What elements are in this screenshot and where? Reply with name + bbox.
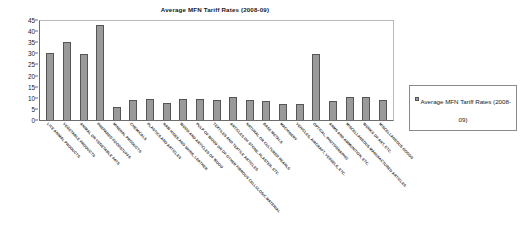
x-tick-label: MINERAL PRODUCTS bbox=[112, 122, 142, 154]
legend-swatch-icon bbox=[415, 97, 419, 101]
bar-slot bbox=[75, 21, 92, 120]
bar[interactable] bbox=[179, 99, 187, 120]
bars-layer bbox=[40, 21, 393, 120]
x-tick-label: PREPARED FOODSTUFFS bbox=[96, 122, 132, 160]
bar[interactable] bbox=[346, 97, 354, 120]
x-tick-label: MISCELLANEOUS MANUFACTURED ARTICLES bbox=[345, 122, 407, 188]
x-tick-label: WORKS OF ART, ETC. bbox=[362, 122, 392, 154]
bar-slot bbox=[308, 21, 325, 120]
chart-container: Average MFN Tariff Rates (2008-09) 45403… bbox=[0, 0, 525, 236]
y-tick-label: 30 bbox=[28, 50, 35, 57]
y-axis: 454035302520151050 bbox=[12, 20, 38, 121]
bar[interactable] bbox=[63, 42, 71, 120]
bar-slot bbox=[275, 21, 292, 120]
bar[interactable] bbox=[262, 101, 270, 120]
bar-slot bbox=[375, 21, 392, 120]
bar-slot bbox=[258, 21, 275, 120]
y-tick-label: 40 bbox=[28, 28, 35, 35]
bar[interactable] bbox=[229, 97, 237, 120]
bar[interactable] bbox=[46, 53, 54, 120]
bar[interactable] bbox=[146, 99, 154, 120]
y-tick-label: 20 bbox=[28, 72, 35, 79]
chart-title: Average MFN Tariff Rates (2008-09) bbox=[0, 6, 430, 13]
y-tick-mark bbox=[35, 20, 38, 21]
bar[interactable] bbox=[96, 25, 104, 120]
x-axis-labels: LIVE ANIMAL PRODUCTSVEGETABLE PRODUCTSAN… bbox=[39, 122, 394, 234]
y-tick-mark bbox=[35, 86, 38, 87]
bar[interactable] bbox=[196, 99, 204, 120]
y-tick-mark bbox=[35, 53, 38, 54]
y-tick-label: 10 bbox=[28, 94, 35, 101]
bar[interactable] bbox=[362, 97, 370, 120]
bar[interactable] bbox=[129, 100, 137, 120]
bar[interactable] bbox=[213, 100, 221, 120]
x-tick-label: CHEMICALS bbox=[129, 122, 147, 141]
y-tick-mark bbox=[35, 97, 38, 98]
bar-slot bbox=[125, 21, 142, 120]
x-tick-label: PLASTICS AND ARTICLES bbox=[146, 122, 182, 160]
legend-entry: Average MFN Tariff Rates (2008-09) bbox=[413, 90, 513, 126]
bar-slot bbox=[208, 21, 225, 120]
plot-area bbox=[39, 20, 394, 121]
bar[interactable] bbox=[312, 54, 320, 120]
y-tick-mark bbox=[35, 31, 38, 32]
legend-label: Average MFN Tariff Rates (2008-09) bbox=[421, 98, 511, 123]
y-tick-label: 35 bbox=[28, 39, 35, 46]
y-tick-mark bbox=[35, 64, 38, 65]
bar[interactable] bbox=[379, 100, 387, 120]
bar-slot bbox=[341, 21, 358, 120]
bar-slot bbox=[358, 21, 375, 120]
bar[interactable] bbox=[279, 104, 287, 120]
y-tick-label: 45 bbox=[28, 17, 35, 24]
y-tick-mark bbox=[35, 42, 38, 43]
bar-slot bbox=[109, 21, 126, 120]
bar-slot bbox=[291, 21, 308, 120]
x-tick-label: VEGETABLE PRODUCTS bbox=[63, 122, 97, 158]
bar[interactable] bbox=[163, 103, 171, 120]
bar-slot bbox=[142, 21, 159, 120]
bar[interactable] bbox=[113, 107, 121, 120]
x-tick-label: LIVE ANIMAL PRODUCTS bbox=[46, 122, 81, 159]
bar-slot bbox=[42, 21, 59, 120]
bar[interactable] bbox=[296, 104, 304, 120]
y-tick-mark bbox=[35, 108, 38, 109]
y-tick-label: 25 bbox=[28, 61, 35, 68]
bar[interactable] bbox=[246, 100, 254, 120]
bar-slot bbox=[225, 21, 242, 120]
bar-slot bbox=[175, 21, 192, 120]
bar-slot bbox=[242, 21, 259, 120]
bar-slot bbox=[92, 21, 109, 120]
bar[interactable] bbox=[80, 54, 88, 120]
bar[interactable] bbox=[329, 101, 337, 120]
bar-slot bbox=[325, 21, 342, 120]
bar-slot bbox=[192, 21, 209, 120]
chart-legend: Average MFN Tariff Rates (2008-09) bbox=[409, 85, 517, 131]
y-tick-mark bbox=[35, 120, 38, 121]
y-tick-mark bbox=[35, 75, 38, 76]
y-tick-label: 15 bbox=[28, 83, 35, 90]
bar-slot bbox=[59, 21, 76, 120]
bar-slot bbox=[158, 21, 175, 120]
